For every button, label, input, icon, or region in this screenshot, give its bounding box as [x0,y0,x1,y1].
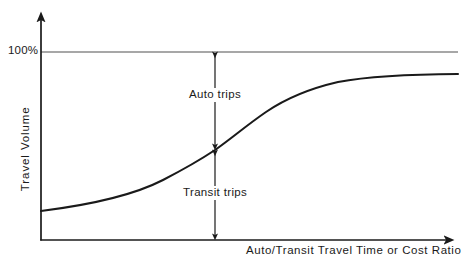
x-axis-title: Auto/Transit Travel Time or Cost Ratio [246,245,461,257]
auto-trips-annotation-label: Auto trips [186,88,244,102]
y-axis-title: Travel Volume [20,97,32,201]
chart-plot-area [0,0,472,266]
chart-figure: 100% Travel Volume Auto/Transit Travel T… [0,0,472,266]
y-axis-tick-label-100-percent: 100% [8,45,38,57]
transit-trips-annotation-label: Transit trips [180,186,250,200]
